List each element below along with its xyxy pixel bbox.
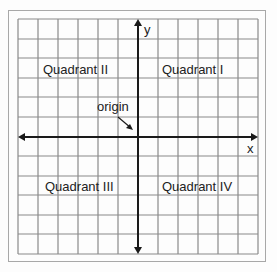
coordinate-plane	[0, 0, 277, 272]
quadrant-3-label: Quadrant III	[45, 179, 114, 194]
x-axis-left-arrow-icon	[18, 133, 25, 141]
origin-label: origin	[97, 99, 129, 114]
x-axis-right-arrow-icon	[251, 133, 258, 141]
x-axis-label: x	[247, 141, 254, 156]
quadrant-2-label: Quadrant II	[43, 62, 108, 77]
quadrant-4-label: Quadrant IV	[162, 179, 232, 194]
y-axis-top-arrow-icon	[134, 19, 142, 26]
y-axis-label: y	[144, 22, 151, 37]
quadrant-1-label: Quadrant I	[162, 62, 223, 77]
origin-pointer-arrow-icon	[118, 117, 133, 130]
y-axis-bottom-arrow-icon	[134, 247, 142, 254]
